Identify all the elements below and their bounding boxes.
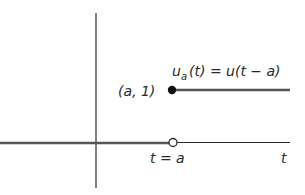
- function-label-u: u: [172, 63, 181, 79]
- point-label: (a, 1): [118, 83, 155, 99]
- step-label: t = a: [150, 150, 185, 166]
- filled-point: [168, 86, 176, 94]
- step-function-diagram: (a, 1) ua(t) = u(t − a) t = a t: [0, 0, 305, 195]
- function-label: ua(t) = u(t − a): [172, 63, 281, 82]
- t-axis-label: t: [281, 150, 287, 166]
- function-label-rest: (t) = u(t − a): [189, 63, 281, 79]
- function-label-sub: a: [181, 71, 187, 82]
- open-point: [169, 139, 177, 147]
